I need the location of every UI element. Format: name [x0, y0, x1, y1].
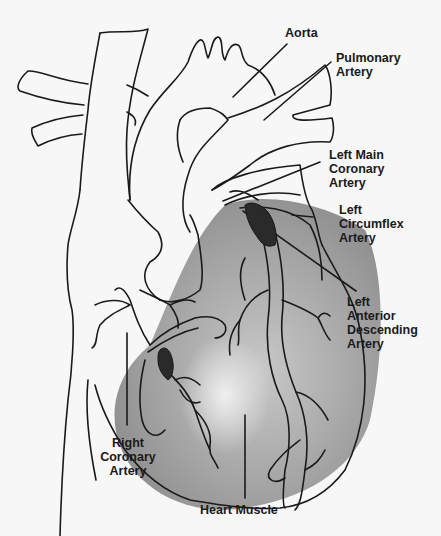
label-right-coronary-artery: Right Coronary Artery — [99, 436, 157, 478]
inferior-vena-cava — [87, 380, 96, 480]
heart-illustration — [0, 0, 441, 536]
brachiocephalic-vein — [18, 71, 88, 105]
heart-diagram: Aorta Pulmonary Artery Left Main Coronar… — [0, 0, 441, 536]
label-aorta: Aorta — [285, 26, 318, 40]
aorta — [130, 37, 275, 200]
label-left-main-coronary-artery: Left Main Coronary Artery — [329, 148, 385, 190]
label-heart-muscle: Heart Muscle — [200, 503, 278, 517]
right-atrium — [60, 190, 80, 536]
label-pulmonary-artery: Pulmonary Artery — [336, 51, 401, 79]
pulmonary-artery — [212, 65, 333, 190]
label-left-circumflex-artery: Left Circumflex Artery — [339, 203, 404, 245]
superior-vena-cava — [100, 29, 148, 200]
heart-muscle-highlight — [180, 335, 270, 455]
label-left-anterior-descending-artery: Left Anterior Descending Artery — [347, 295, 418, 351]
